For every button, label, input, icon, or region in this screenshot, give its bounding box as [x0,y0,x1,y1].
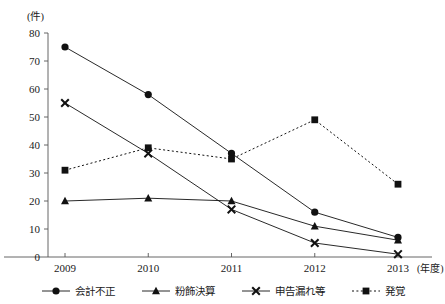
x-axis-tick-label: 2009 [54,262,77,274]
series-line-1 [65,198,398,240]
legend-item[interactable]: 粉飾決算 [141,283,215,298]
legend-item-label: 粉飾決算 [175,283,215,298]
series-point [228,156,235,163]
y-axis-tick-label: 60 [29,83,41,95]
x-marker-icon [241,285,271,297]
x-axis-tick-label: 2010 [137,262,160,274]
legend-marker [152,286,160,293]
legend-item-label: 会計不正 [75,283,115,298]
x-axis-tick-label: 2012 [304,262,326,274]
chart-series [61,43,401,241]
series-point [145,91,152,98]
series-point [145,144,152,151]
series-point [62,167,69,174]
legend-item[interactable]: 会計不正 [41,283,115,298]
triangle-marker-icon [141,285,171,297]
legend-item-label: 発覚 [385,283,405,298]
x-axis-tick-label: 2013 [387,262,410,274]
chart-series [61,99,402,258]
legend-marker [362,287,369,294]
legend-item[interactable]: 発覚 [351,283,405,298]
y-axis-tick-label: 80 [29,27,41,39]
y-axis-tick-label: 70 [29,55,41,67]
chart-series [61,194,402,243]
chart-figure: (件) 010203040506070802009201020112012201… [0,0,445,304]
y-axis-tick-label: 50 [29,111,41,123]
chart-legend: 会計不正粉飾決算申告漏れ等発覚 [0,283,445,298]
y-axis-tick-label: 20 [29,195,41,207]
plot-area: 0102030405060708020092010201120122013(年度… [0,0,445,304]
square-marker-icon [351,285,381,297]
series-point [311,116,318,123]
series-point [61,43,68,50]
legend-item-label: 申告漏れ等 [275,283,325,298]
y-axis-tick-label: 0 [35,251,41,263]
series-point [61,99,69,107]
series-point [144,194,152,201]
x-axis-unit-label: (年度) [417,262,444,275]
circle-marker-icon [41,285,71,297]
legend-item[interactable]: 申告漏れ等 [241,283,325,298]
series-point [228,206,236,214]
y-axis-tick-label: 30 [29,167,41,179]
x-axis-tick-label: 2011 [221,262,243,274]
legend-marker [52,287,59,294]
y-axis-tick-label: 10 [29,223,41,235]
y-axis-tick-label: 40 [29,139,41,151]
series-point [395,181,402,188]
series-point [311,209,318,216]
